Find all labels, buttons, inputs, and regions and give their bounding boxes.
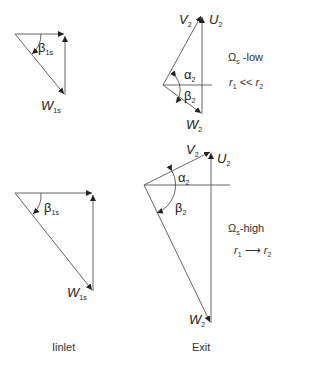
speed-text: -low: [240, 51, 263, 63]
beta-subscript: 1s: [45, 49, 52, 56]
alpha-subscript: 2: [186, 179, 190, 186]
relation-symbol: ⟶: [242, 244, 264, 256]
relation-symbol: <<: [237, 76, 256, 88]
w2-label-top: W2: [186, 118, 202, 133]
w-subscript: 1s: [79, 294, 86, 301]
v2-label-top: V2: [179, 13, 192, 28]
inlet-caption: Iinlet: [52, 342, 75, 353]
u2-label-top: U2: [209, 13, 222, 28]
speed-high-note: Ωs-high: [228, 223, 264, 236]
w-subscript: 2: [201, 321, 205, 328]
u-symbol: U: [209, 12, 218, 27]
u-subscript: 2: [226, 160, 230, 167]
beta-subscript: 2: [191, 97, 195, 104]
beta2-label-top: β2: [184, 89, 195, 104]
u-subscript: 2: [218, 21, 222, 28]
beta2-label-bottom: β2: [175, 201, 186, 216]
w-symbol: W: [189, 312, 201, 327]
alpha-symbol: α: [178, 170, 186, 185]
u2-label-bottom: U2: [217, 152, 230, 167]
w-symbol: W: [41, 98, 53, 113]
v-subscript: 2: [188, 21, 192, 28]
u-symbol: U: [217, 151, 226, 166]
r2-subscript: 2: [259, 83, 263, 90]
w-symbol: W: [67, 285, 79, 300]
beta-subscript: 2: [182, 209, 186, 216]
w2-label-bottom: W2: [189, 313, 205, 328]
beta-1s-label-bottom: β1s: [44, 201, 59, 216]
w-subscript: 2: [198, 126, 202, 133]
speed-text: -high: [240, 222, 264, 234]
v-subscript: 2: [195, 151, 199, 158]
beta-1s-label-top: β1s: [38, 41, 53, 56]
beta-subscript: 1s: [51, 209, 58, 216]
alpha2-label-top: α2: [184, 68, 195, 83]
omega-symbol: Ω: [228, 222, 236, 234]
w-1s-label-bottom: W1s: [67, 286, 87, 301]
alpha-subscript: 2: [192, 76, 196, 83]
w-1s-label-top: W1s: [41, 99, 61, 114]
alpha2-label-bottom: α2: [178, 171, 189, 186]
radius-low-note: r1 << r2: [229, 77, 263, 90]
exit-caption: Exit: [192, 342, 210, 353]
w-subscript: 1s: [53, 107, 60, 114]
v-symbol: V: [179, 12, 188, 27]
radius-high-note: r1 ⟶ r2: [234, 245, 271, 258]
w-symbol: W: [186, 117, 198, 132]
omega-symbol: Ω: [228, 51, 236, 63]
alpha-symbol: α: [184, 67, 192, 82]
speed-low-note: Ωs -low: [228, 52, 263, 65]
r2-subscript: 2: [267, 251, 271, 258]
v-symbol: V: [186, 142, 195, 157]
v2-label-bottom: V2: [186, 143, 199, 158]
